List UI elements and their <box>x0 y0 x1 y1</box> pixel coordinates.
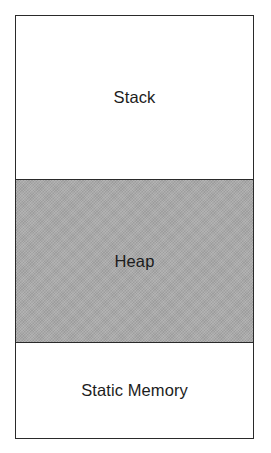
static-memory-segment: Static Memory <box>16 342 253 438</box>
stack-label: Stack <box>114 89 156 106</box>
static-memory-label: Static Memory <box>81 382 188 399</box>
stack-segment: Stack <box>16 16 253 179</box>
memory-layout-diagram: Stack Heap Static Memory <box>15 15 254 439</box>
heap-segment: Heap <box>16 179 253 342</box>
heap-label: Heap <box>115 253 155 270</box>
